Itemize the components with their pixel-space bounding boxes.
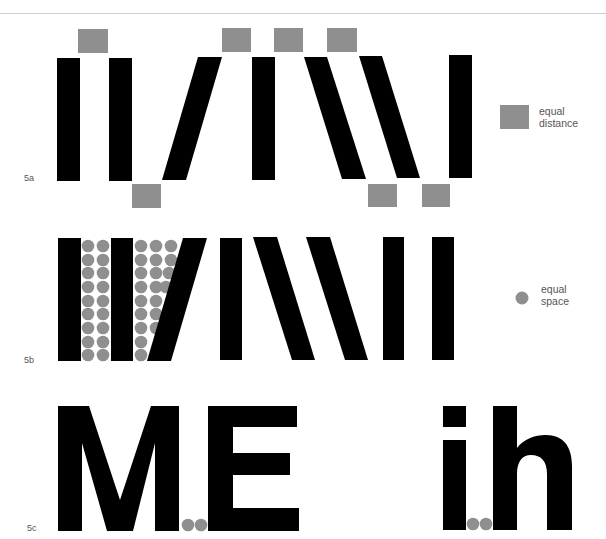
slash-stroke — [162, 57, 222, 180]
gray-square-icon — [500, 105, 529, 129]
vertical-stroke — [58, 238, 81, 361]
dot-column — [135, 240, 148, 362]
backslash-stroke — [253, 237, 315, 360]
gray-square-icon — [78, 29, 108, 53]
vertical-stroke — [432, 237, 454, 360]
vertical-stroke — [449, 55, 472, 178]
spacing-diagram: 5a equal distance — [0, 0, 606, 539]
dot-column — [97, 240, 110, 362]
gray-dot-icon — [480, 518, 493, 531]
gray-dot-icon — [516, 292, 529, 305]
gray-square-icon — [222, 28, 251, 52]
letter-i-stem — [443, 440, 466, 530]
gray-dot-icon — [182, 519, 195, 532]
legend-text: space — [541, 295, 569, 307]
stroke-set-5a — [57, 55, 472, 181]
vertical-stroke — [109, 58, 132, 181]
gray-dot-icon — [467, 518, 480, 531]
backslash-stroke — [304, 57, 366, 179]
gray-square-icon — [132, 184, 161, 208]
stroke-set-5b — [58, 237, 454, 361]
gray-square-icon — [422, 184, 450, 207]
letterforms — [58, 406, 572, 531]
backslash-stroke — [359, 56, 420, 178]
gray-square-icon — [327, 28, 357, 52]
letter-h — [493, 406, 572, 530]
gray-square-icon — [274, 28, 303, 52]
figure-label: 5a — [24, 173, 34, 183]
legend-text: equal — [541, 283, 567, 295]
gray-square-icon — [368, 184, 397, 207]
gray-dot-icon — [195, 519, 208, 532]
letter-m — [58, 406, 179, 531]
letter-i-dot — [443, 406, 466, 427]
legend-text: distance — [539, 117, 578, 129]
vertical-stroke — [220, 238, 242, 360]
vertical-stroke — [383, 237, 404, 360]
letter-e — [208, 406, 299, 531]
figure-5c: 5c — [27, 406, 572, 533]
vertical-stroke — [111, 238, 133, 361]
figure-5b: 5b equal space — [24, 237, 569, 365]
vertical-stroke — [57, 58, 80, 181]
legend-text: equal — [539, 105, 565, 117]
vertical-stroke — [252, 57, 275, 180]
dot-column — [82, 240, 95, 362]
figure-label: 5c — [27, 523, 37, 533]
backslash-stroke — [306, 237, 368, 360]
figure-5a: 5a equal distance — [24, 28, 578, 208]
figure-label: 5b — [24, 355, 34, 365]
